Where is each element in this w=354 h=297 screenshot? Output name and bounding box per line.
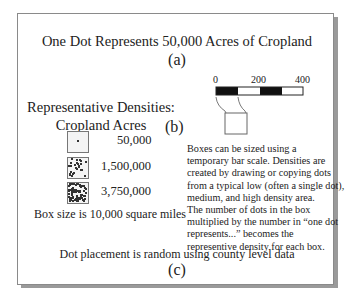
label-c: (c) bbox=[0, 261, 354, 279]
density-dot bbox=[71, 175, 73, 177]
scale-segment-light-1 bbox=[238, 87, 260, 95]
footer-note: Dot placement is random using county lev… bbox=[0, 247, 354, 262]
density-dot bbox=[80, 194, 82, 196]
scale-segment-dark-1 bbox=[216, 87, 238, 95]
density-dot bbox=[84, 198, 86, 200]
figure-title: One Dot Represents 50,000 Acres of Cropl… bbox=[0, 33, 354, 50]
legend-heading-line1: Representative Densities: bbox=[26, 99, 176, 116]
description-line: represents...” becomes the bbox=[187, 228, 337, 240]
density-dot bbox=[81, 197, 83, 199]
arrow-left bbox=[216, 97, 226, 113]
density-dot bbox=[76, 162, 78, 164]
density-dot bbox=[76, 159, 78, 161]
density-value-medium: 1,500,000 bbox=[101, 159, 151, 174]
density-dot bbox=[69, 174, 71, 176]
description-line: temporary bar scale. Densities are bbox=[187, 155, 337, 167]
density-dot bbox=[73, 191, 75, 193]
density-dot bbox=[71, 158, 73, 160]
density-dot bbox=[80, 160, 82, 162]
scale-segment-dark-2 bbox=[260, 87, 282, 95]
density-dot bbox=[83, 195, 85, 197]
scale-bar-diagram bbox=[205, 84, 315, 139]
density-dot bbox=[84, 175, 86, 177]
density-box-low bbox=[67, 131, 89, 153]
description-line: from a typical low (often a single dot), bbox=[187, 180, 337, 192]
density-dot bbox=[74, 164, 76, 166]
density-dot bbox=[68, 165, 70, 167]
density-dot bbox=[78, 165, 80, 167]
density-dot bbox=[75, 184, 77, 186]
description-line: created by drawing or copying dots bbox=[187, 167, 337, 179]
density-box-high bbox=[67, 182, 89, 204]
density-dot bbox=[80, 169, 82, 171]
label-a: (a) bbox=[0, 51, 354, 69]
density-dot bbox=[70, 199, 72, 201]
box-size-note: Box size is 10,000 square miles bbox=[34, 207, 186, 222]
density-dot bbox=[76, 195, 78, 197]
density-dot bbox=[76, 200, 78, 202]
density-box-medium bbox=[67, 157, 89, 179]
sample-box bbox=[225, 113, 247, 134]
density-dot bbox=[71, 188, 73, 190]
density-dot bbox=[75, 167, 77, 169]
scale-segment-light-2 bbox=[282, 87, 303, 95]
density-dot bbox=[70, 162, 72, 164]
density-dot bbox=[68, 193, 70, 195]
density-dot bbox=[73, 183, 75, 185]
density-dot bbox=[69, 184, 71, 186]
density-value-high: 3,750,000 bbox=[101, 184, 151, 199]
description-text: Boxes can be sized using a temporary bar… bbox=[187, 143, 337, 253]
density-dot bbox=[84, 187, 86, 189]
density-dot bbox=[77, 140, 79, 142]
density-dot bbox=[80, 163, 82, 165]
description-line: The number of dots in the box bbox=[187, 204, 337, 216]
density-dot bbox=[80, 186, 82, 188]
density-dot bbox=[68, 190, 70, 192]
density-dot bbox=[85, 192, 87, 194]
density-dot bbox=[82, 185, 84, 187]
density-value-low: 50,000 bbox=[117, 133, 151, 148]
density-dot bbox=[79, 190, 81, 192]
description-line: Boxes can be sized using a bbox=[187, 143, 337, 155]
density-dot bbox=[72, 173, 74, 175]
density-dot bbox=[85, 161, 87, 163]
density-dot bbox=[70, 165, 72, 167]
density-dot bbox=[71, 194, 73, 196]
density-dot bbox=[77, 190, 79, 192]
label-b: (b) bbox=[165, 118, 184, 136]
arrow-right bbox=[238, 97, 246, 113]
description-line: multiplied by the number in “one dot bbox=[187, 216, 337, 228]
density-dot bbox=[82, 199, 84, 201]
legend-heading-line2: Cropland Acres bbox=[26, 117, 176, 134]
description-line: medium, and high density area. bbox=[187, 192, 337, 204]
